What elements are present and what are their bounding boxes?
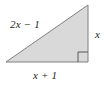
vertical-leg-label: x	[95, 29, 100, 40]
hypotenuse-label: 2x − 1	[10, 19, 40, 30]
base-leg-label: x + 1	[33, 70, 57, 81]
right-triangle-figure: 2x − 1 x x + 1	[0, 0, 111, 86]
triangle-shape	[6, 5, 88, 62]
